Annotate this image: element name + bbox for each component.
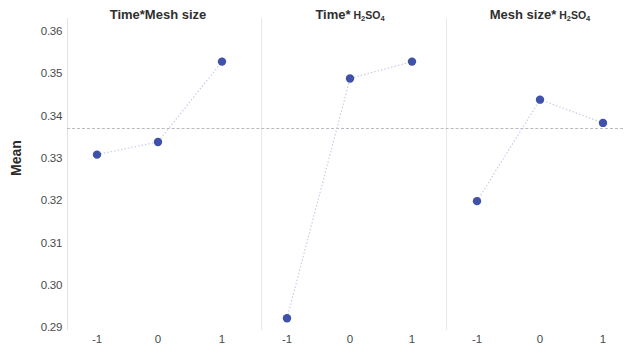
data-point-time-mesh-size-1 (218, 57, 226, 65)
data-point-time-mesh-size-0 (154, 138, 162, 146)
data-point-mesh-size-h2so4-1 (599, 119, 607, 127)
data-point-time-h2so4-0 (346, 74, 354, 82)
interaction-plot: Mean 0.36 0.35 0.34 0.33 0.32 0.31 0.30 … (0, 0, 629, 357)
data-point-time-h2so4-1 (408, 57, 416, 65)
series-line-time-h2so4 (287, 62, 412, 319)
series-line-mesh-size-h2so4 (477, 100, 603, 201)
data-point-mesh-size-h2so4--1 (473, 197, 481, 205)
data-point-time-mesh-size--1 (93, 150, 101, 158)
series-layer (0, 0, 629, 357)
data-point-time-h2so4--1 (283, 314, 291, 322)
data-point-mesh-size-h2so4-0 (536, 95, 544, 103)
